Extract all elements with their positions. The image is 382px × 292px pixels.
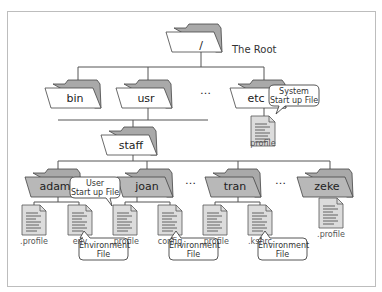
root-folder-label[interactable]: / [186,40,216,52]
root-caption: The Root [232,44,276,55]
file-etc-profile[interactable]: profile [246,139,280,148]
ellipsis-users-2: … [275,174,287,187]
folder-usr[interactable]: usr [121,93,171,105]
ellipsis-level1: … [200,84,212,97]
folder-joan[interactable]: joan [122,181,172,193]
callout-system-startup: System Start up File [269,87,319,105]
ellipsis-users-1: … [185,174,197,187]
folder-staff[interactable]: staff [106,140,156,152]
callout-env-file-2: Environment File [169,241,218,259]
file-zeke-profile[interactable]: .profile [313,230,349,239]
callout-env-file-1: Environment File [79,241,128,259]
callout-user-startup: User Start up File [70,179,120,197]
folder-tran[interactable]: tran [210,181,260,193]
folder-bin[interactable]: bin [50,93,100,105]
file-adam-profile[interactable]: .profile [16,237,52,246]
callout-env-file-3: Environment File [258,241,307,259]
folder-zeke[interactable]: zeke [302,181,352,193]
